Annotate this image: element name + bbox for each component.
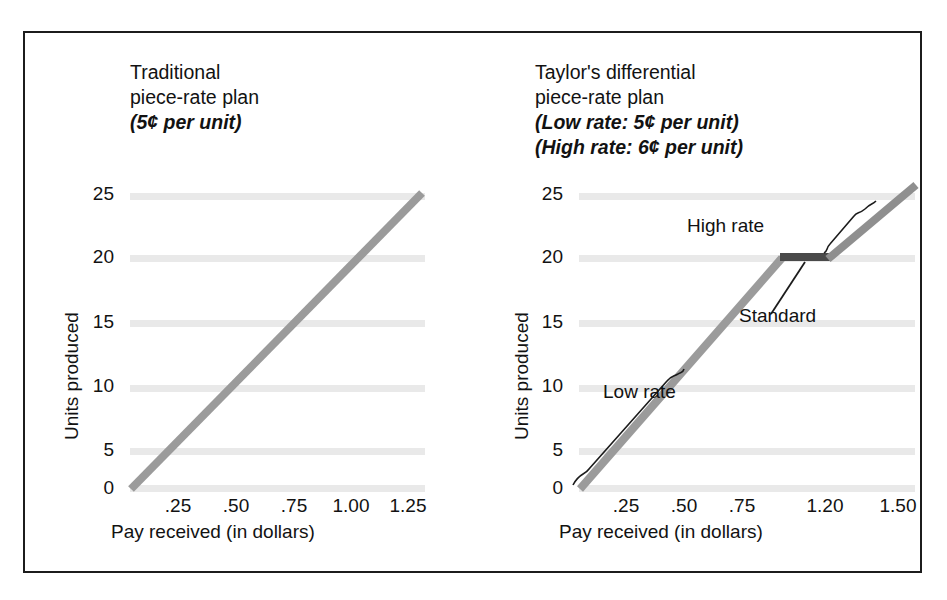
x-axis-label-taylor: Pay received (in dollars) [559, 521, 763, 543]
panel-taylor-differential: Taylor's differential piece-rate plan (L… [475, 33, 924, 571]
figure-frame: Traditional piece-rate plan (5¢ per unit… [23, 31, 922, 573]
y-tick-25: 25 [80, 183, 114, 205]
x-tick-0-25: .25 [604, 495, 648, 517]
panel-traditional-piece-rate: Traditional piece-rate plan (5¢ per unit… [25, 33, 475, 571]
y-tick-20: 20 [529, 246, 563, 268]
y-tick-10: 10 [80, 375, 114, 397]
x-tick-1-00: 1.00 [326, 495, 376, 517]
x-tick-1-20: 1.20 [800, 495, 850, 517]
annotation-standard: Standard [739, 305, 816, 327]
series-piece-rate-line [131, 193, 422, 489]
y-tick-0: 0 [80, 477, 114, 499]
x-tick-1-50: 1.50 [873, 495, 923, 517]
y-tick-25: 25 [529, 183, 563, 205]
y-tick-5: 5 [529, 439, 563, 461]
y-tick-20: 20 [80, 246, 114, 268]
y-tick-10: 10 [529, 375, 563, 397]
y-tick-15: 15 [80, 311, 114, 333]
y-tick-15: 15 [529, 311, 563, 333]
y-tick-5: 5 [80, 439, 114, 461]
x-tick-0-75: .75 [272, 495, 316, 517]
x-tick-0-75: .75 [720, 495, 764, 517]
x-axis-label-traditional: Pay received (in dollars) [111, 521, 315, 543]
x-tick-0-25: .25 [156, 495, 200, 517]
annotation-high-rate: High rate [687, 215, 764, 237]
gridlines [579, 193, 915, 492]
x-tick-0-50: .50 [662, 495, 706, 517]
x-tick-0-50: .50 [214, 495, 258, 517]
y-tick-0: 0 [529, 477, 563, 499]
annotation-low-rate: Low rate [603, 381, 676, 403]
x-tick-1-25: 1.25 [383, 495, 433, 517]
